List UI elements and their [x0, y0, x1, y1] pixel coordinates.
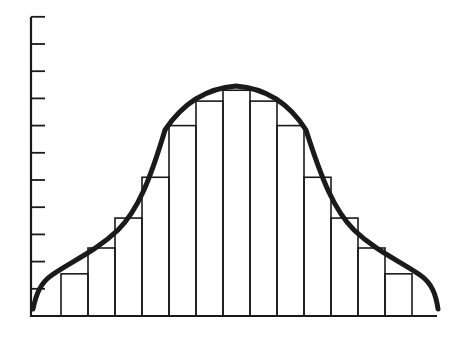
- histogram-bar: [277, 126, 304, 316]
- histogram-bar: [115, 218, 142, 316]
- histogram-bar: [250, 101, 277, 316]
- histogram-chart: [0, 0, 464, 343]
- histogram-bar: [196, 101, 223, 316]
- histogram-bar: [223, 90, 250, 316]
- bell-curve: [33, 86, 438, 309]
- histogram-bar: [88, 248, 115, 316]
- histogram-bar: [358, 248, 385, 316]
- histogram-bars: [61, 90, 412, 316]
- histogram-bar: [385, 274, 412, 316]
- axes: [30, 17, 437, 317]
- histogram-bar: [142, 177, 169, 316]
- histogram-bar: [61, 274, 88, 316]
- histogram-bar: [304, 177, 331, 316]
- histogram-bar: [169, 126, 196, 316]
